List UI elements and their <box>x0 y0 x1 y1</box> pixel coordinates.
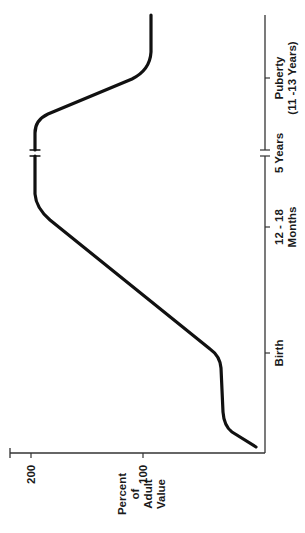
svg-text:Adult: Adult <box>142 479 154 509</box>
y-tick-200: 200 <box>25 465 37 484</box>
x-tick-puberty: Puberty <box>273 56 285 99</box>
age-axis: Birth 12 - 18 Months 5 Years Puberty (11… <box>260 15 298 453</box>
data-line <box>30 15 256 447</box>
x-tick-puberty-line2: (11 -13 Years) <box>286 41 298 114</box>
chart: 200 100 Percent of Adult Value Birth 12 … <box>0 0 305 533</box>
x-tick-12-18-months: 12 - 18 <box>273 208 285 244</box>
value-axis: 200 100 Percent of Adult Value <box>10 448 265 515</box>
svg-text:Value: Value <box>155 479 167 509</box>
x-tick-12-18-months-line2: Months <box>286 207 298 248</box>
x-tick-5-years: 5 Years <box>273 133 285 173</box>
x-tick-birth: Birth <box>273 340 285 367</box>
svg-text:of: of <box>129 488 141 499</box>
svg-text:Percent: Percent <box>116 473 128 515</box>
